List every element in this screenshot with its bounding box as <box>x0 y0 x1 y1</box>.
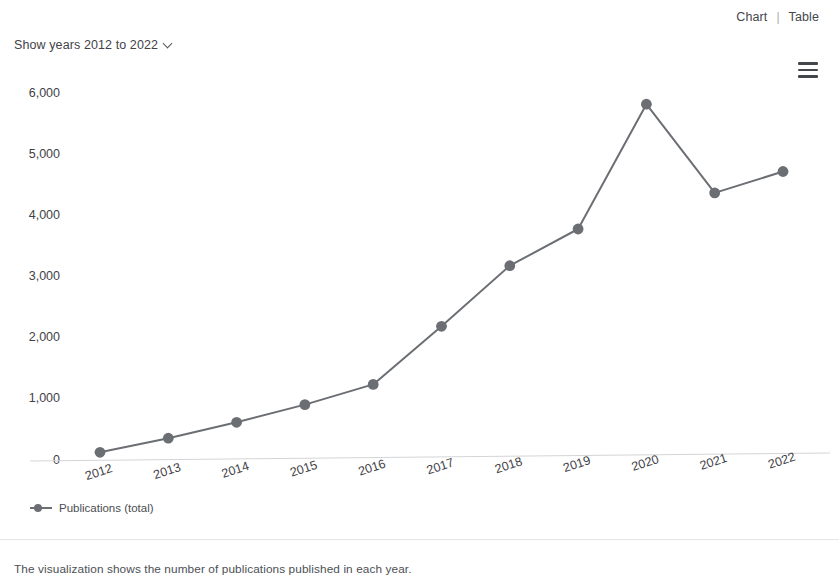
legend-label: Publications (total) <box>59 502 154 514</box>
y-axis-tick-label: 2,000 <box>29 330 60 344</box>
x-axis-tick-label: 2015 <box>288 458 319 480</box>
x-axis-tick-label: 2019 <box>561 453 592 475</box>
data-point[interactable]: 2021: 4350 <box>709 188 720 199</box>
x-axis-tick-label: 2013 <box>152 460 183 482</box>
legend-marker-icon <box>30 503 52 513</box>
y-axis-tick-label: 1,000 <box>29 391 60 405</box>
series-line-publications-total <box>100 104 783 452</box>
data-point[interactable]: 2016: 1220 <box>368 379 379 390</box>
data-point[interactable]: 2012: 110 <box>95 447 106 458</box>
x-axis-tick-label: 2017 <box>425 455 456 477</box>
x-axis-tick-label: 2012 <box>83 461 114 483</box>
y-axis-tick-label: 3,000 <box>29 269 60 283</box>
data-point[interactable]: 2022: 4700 <box>778 166 789 177</box>
y-axis-tick-label: 4,000 <box>29 208 60 222</box>
data-point[interactable]: 2020: 5800 <box>641 99 652 110</box>
x-axis-tick-label: 2022 <box>766 450 797 472</box>
data-point[interactable]: 2015: 890 <box>300 399 311 410</box>
x-axis-tick-label: 2018 <box>493 454 524 476</box>
data-point[interactable]: 2017: 2170 <box>436 321 447 332</box>
y-axis-tick-label: 0 <box>53 453 60 467</box>
chart-caption: The visualization shows the number of pu… <box>14 562 412 576</box>
chart-canvas: 01,0002,0003,0004,0005,0006,000201220132… <box>0 0 839 540</box>
y-axis-tick-label: 6,000 <box>29 86 60 100</box>
data-point[interactable]: 2014: 600 <box>231 417 242 428</box>
chart-legend: Publications (total) <box>30 502 154 514</box>
y-axis-tick-label: 5,000 <box>29 147 60 161</box>
data-point[interactable]: 2018: 3160 <box>504 260 515 271</box>
legend-item-publications-total[interactable]: Publications (total) <box>30 502 154 514</box>
x-axis-tick-label: 2014 <box>220 459 251 481</box>
data-point[interactable]: 2019: 3760 <box>573 224 584 235</box>
x-axis-tick-label: 2016 <box>357 457 388 479</box>
data-point[interactable]: 2013: 340 <box>163 433 174 444</box>
line-chart: 01,0002,0003,0004,0005,0006,000201220132… <box>0 0 839 540</box>
footer-divider <box>0 539 839 540</box>
